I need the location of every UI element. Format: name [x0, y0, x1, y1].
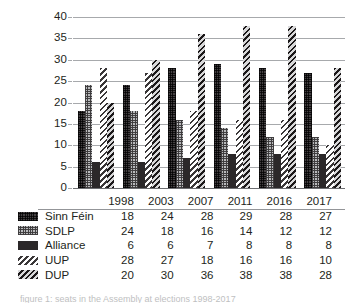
y-tick-mark-25: [68, 81, 72, 82]
header-corner-label: [41, 192, 107, 209]
bar-dup-2007: [198, 34, 205, 188]
table-row-label: UUP: [41, 253, 107, 268]
bar-uup-2016: [281, 120, 288, 188]
table-cell-2003: 30: [147, 267, 187, 282]
table-cell-1998: 18: [107, 209, 147, 224]
table-cell-2017: 12: [305, 224, 345, 239]
legend-swatch-cell: [17, 267, 41, 282]
table-cell-2017: 10: [305, 253, 345, 268]
plot-area: [73, 17, 345, 188]
table-cell-2011: 16: [226, 253, 265, 268]
bar-alliance-1998: [92, 162, 99, 188]
legend-swatch-icon: [18, 241, 38, 250]
legend-swatch-icon: [18, 212, 38, 221]
y-tick-label-25: 25: [27, 74, 67, 86]
table-cell-2016: 12: [265, 224, 305, 239]
table-header-rule: [38, 209, 345, 210]
y-tick-label-35: 35: [27, 31, 67, 43]
table-year-header-2007: 2007: [187, 192, 227, 209]
bar-groups: [73, 17, 345, 188]
table-row: Sinn Féin182428292827: [17, 209, 345, 224]
bar-sdlp-2007: [176, 120, 183, 188]
table-cell-2017: 27: [305, 209, 345, 224]
bar-alliance-2017: [319, 154, 326, 188]
data-table: 199820032007201120162017 Sinn Féin182428…: [17, 192, 345, 282]
table-cell-2016: 8: [265, 238, 305, 253]
y-tick-mark-15: [68, 124, 72, 125]
header-swatch-spacer: [17, 192, 41, 209]
table-cell-2007: 7: [187, 238, 227, 253]
bar-dup-2016: [288, 26, 295, 188]
bar-group-2017: [304, 17, 341, 188]
legend-swatch-cell: [17, 253, 41, 268]
legend-swatch-icon: [18, 256, 38, 265]
bar-dup-2003: [152, 60, 159, 188]
bar-group-2007: [168, 17, 205, 188]
bar-uup-2017: [326, 145, 333, 188]
table-body: Sinn Féin182428292827SDLP241816141212All…: [17, 209, 345, 282]
x-axis-line: [73, 188, 345, 189]
table-row: DUP203036383828: [17, 267, 345, 282]
table-row: UUP282718161610: [17, 253, 345, 268]
bar-sinn-féin-2016: [259, 68, 266, 188]
bar-group-2011: [214, 17, 251, 188]
bar-sdlp-2017: [312, 137, 319, 188]
table-row-label: Alliance: [41, 238, 107, 253]
table-cell-2016: 16: [265, 253, 305, 268]
legend-swatch-cell: [17, 238, 41, 253]
bar-sdlp-2016: [266, 137, 273, 188]
y-tick-label-10: 10: [27, 138, 67, 150]
table-cell-2003: 6: [147, 238, 187, 253]
table-cell-1998: 20: [107, 267, 147, 282]
y-tick-label-20: 20: [27, 96, 67, 108]
bar-group-2016: [259, 17, 296, 188]
bar-uup-1998: [100, 68, 107, 188]
table-row-label: DUP: [41, 267, 107, 282]
table-cell-2003: 27: [147, 253, 187, 268]
table-year-header-1998: 1998: [107, 192, 147, 209]
y-tick-mark-5: [68, 167, 72, 168]
bar-sinn-féin-2017: [304, 73, 311, 188]
bar-uup-2011: [236, 120, 243, 188]
table-row: Alliance667888: [17, 238, 345, 253]
y-tick-label-30: 30: [27, 53, 67, 65]
table-cell-2007: 36: [187, 267, 227, 282]
bar-alliance-2016: [274, 154, 281, 188]
y-tick-mark-35: [68, 38, 72, 39]
bar-alliance-2011: [228, 154, 235, 188]
table-cell-1998: 28: [107, 253, 147, 268]
bar-sdlp-2003: [130, 111, 137, 188]
bar-alliance-2003: [138, 162, 145, 188]
y-tick-label-15: 15: [27, 117, 67, 129]
bar-sinn-féin-2003: [123, 85, 130, 188]
bar-uup-2003: [145, 73, 152, 188]
bar-sinn-féin-1998: [78, 111, 85, 188]
table-cell-1998: 24: [107, 224, 147, 239]
legend-swatch-cell: [17, 224, 41, 239]
y-tick-mark-40: [68, 17, 72, 18]
table-cell-2016: 38: [265, 267, 305, 282]
y-tick-label-40: 40: [27, 10, 67, 22]
table-year-header-2003: 2003: [147, 192, 187, 209]
table-row-label: SDLP: [41, 224, 107, 239]
bar-group-2003: [123, 17, 160, 188]
table-cell-2016: 28: [265, 209, 305, 224]
table-cell-2011: 38: [226, 267, 265, 282]
table-cell-2007: 18: [187, 253, 227, 268]
y-tick-mark-20: [68, 103, 72, 104]
table-cell-2007: 28: [187, 209, 227, 224]
table-cell-2003: 18: [147, 224, 187, 239]
table-header-row: 199820032007201120162017: [17, 192, 345, 209]
bar-dup-1998: [107, 103, 114, 189]
y-tick-label-5: 5: [27, 160, 67, 172]
legend-swatch-icon: [18, 270, 38, 279]
legend-swatch-icon: [18, 226, 38, 235]
table-cell-2007: 16: [187, 224, 227, 239]
table-cell-2011: 29: [226, 209, 265, 224]
table-cell-2017: 8: [305, 238, 345, 253]
figure-caption: figure 1: seats in the Assembly at elect…: [20, 294, 236, 303]
table-row: SDLP241816141212: [17, 224, 345, 239]
table-cell-1998: 6: [107, 238, 147, 253]
table-cell-2003: 24: [147, 209, 187, 224]
